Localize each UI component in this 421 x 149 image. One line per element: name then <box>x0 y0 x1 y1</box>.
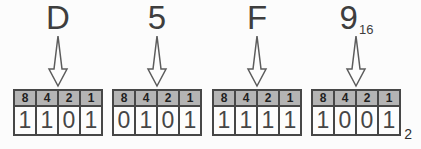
hex-digit-label: 916 <box>340 2 373 33</box>
bits-row: 1 1 0 1 <box>14 106 102 135</box>
down-arrow-icon <box>145 35 169 88</box>
weight-cell: 8 <box>14 90 36 106</box>
hex-digit: 5 <box>148 0 166 36</box>
weights-row: 8 4 2 1 <box>14 90 102 106</box>
bits-row: 0 1 0 1 <box>113 106 201 135</box>
weight-cell: 1 <box>80 90 102 106</box>
bits-row: 1 0 0 1 <box>312 106 400 135</box>
hex-base-subscript: 16 <box>359 22 373 37</box>
bit-cell: 0 <box>157 106 179 135</box>
bit-cell: 1 <box>312 106 334 135</box>
hex-digit: D <box>46 0 70 36</box>
bit-cell: 1 <box>14 106 36 135</box>
bit-cell: 1 <box>279 106 301 135</box>
bit-cell: 1 <box>36 106 58 135</box>
weight-cell: 1 <box>378 90 400 106</box>
weights-row: 8 4 2 1 <box>312 90 400 106</box>
weights-row: 8 4 2 1 <box>213 90 301 106</box>
bit-cell: 1 <box>257 106 279 135</box>
bit-cell: 1 <box>80 106 102 135</box>
weight-cell: 4 <box>135 90 157 106</box>
binary-table: 8 4 2 1 0 1 0 1 <box>112 89 202 136</box>
binary-table-wrap: 8 4 2 1 0 1 0 1 <box>112 89 202 136</box>
bits-row: 1 1 1 1 <box>213 106 301 135</box>
hex-to-binary-diagram: D 8 4 2 1 1 1 0 1 5 <box>0 0 421 149</box>
weight-cell: 4 <box>36 90 58 106</box>
bit-cell: 1 <box>179 106 201 135</box>
down-arrow-icon <box>245 35 269 88</box>
binary-base-subscript: 2 <box>404 126 412 142</box>
weight-cell: 8 <box>113 90 135 106</box>
binary-table: 8 4 2 1 1 1 0 1 <box>13 89 103 136</box>
hex-digit: F <box>247 0 267 36</box>
down-arrow-icon <box>46 35 70 88</box>
hex-digit-label: F <box>247 2 267 33</box>
weight-cell: 2 <box>356 90 378 106</box>
weight-cell: 1 <box>179 90 201 106</box>
weight-cell: 1 <box>279 90 301 106</box>
weight-cell: 2 <box>58 90 80 106</box>
bit-cell: 0 <box>334 106 356 135</box>
hex-group-d: D 8 4 2 1 1 1 0 1 <box>11 2 105 136</box>
hex-group-9: 916 8 4 2 1 1 0 0 1 2 <box>309 2 403 136</box>
weight-cell: 4 <box>235 90 257 106</box>
hex-group-f: F 8 4 2 1 1 1 1 1 <box>210 2 304 136</box>
weight-cell: 4 <box>334 90 356 106</box>
binary-table: 8 4 2 1 1 0 0 1 <box>311 89 401 136</box>
binary-table-wrap: 8 4 2 1 1 1 0 1 <box>13 89 103 136</box>
bit-cell: 0 <box>58 106 80 135</box>
down-arrow-icon <box>344 35 368 88</box>
hex-digit-label: D <box>46 2 70 33</box>
hex-group-5: 5 8 4 2 1 0 1 0 1 <box>110 2 204 136</box>
bit-cell: 1 <box>213 106 235 135</box>
hex-digit: 9 <box>340 0 358 36</box>
hex-digit-label: 5 <box>148 2 166 33</box>
weight-cell: 8 <box>213 90 235 106</box>
bit-cell: 1 <box>235 106 257 135</box>
weight-cell: 8 <box>312 90 334 106</box>
binary-table-wrap: 8 4 2 1 1 1 1 1 <box>212 89 302 136</box>
binary-table-wrap: 8 4 2 1 1 0 0 1 2 <box>311 89 401 136</box>
bit-cell: 0 <box>113 106 135 135</box>
weight-cell: 2 <box>257 90 279 106</box>
bit-cell: 1 <box>378 106 400 135</box>
bit-cell: 0 <box>356 106 378 135</box>
binary-table: 8 4 2 1 1 1 1 1 <box>212 89 302 136</box>
bit-cell: 1 <box>135 106 157 135</box>
weights-row: 8 4 2 1 <box>113 90 201 106</box>
weight-cell: 2 <box>157 90 179 106</box>
